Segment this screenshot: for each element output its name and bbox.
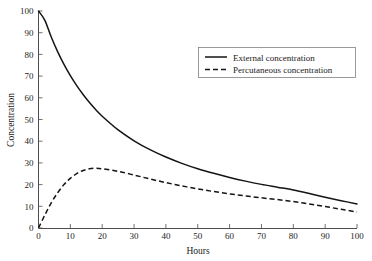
x-tick-label: 90 — [321, 231, 331, 241]
y-tick-label: 100 — [20, 6, 34, 16]
y-axis-tick-group — [39, 11, 43, 228]
y-axis-title: Concentration — [6, 93, 16, 147]
x-tick-label: 10 — [66, 231, 76, 241]
chart-legend: External concentration Percutaneous conc… — [199, 48, 356, 78]
y-axis-tick-labels: 0102030405060708090100 — [20, 6, 34, 233]
legend-label-1: Percutaneous concentration — [233, 65, 333, 75]
y-tick-label: 20 — [25, 180, 35, 190]
y-tick-label: 50 — [25, 115, 35, 125]
y-tick-label: 10 — [25, 202, 35, 212]
x-axis-title: Hours — [186, 246, 210, 256]
x-tick-label: 50 — [193, 231, 203, 241]
x-tick-label: 100 — [350, 231, 364, 241]
chart-figure: 0102030405060708090100 01020304050607080… — [0, 0, 372, 261]
y-tick-label: 0 — [29, 223, 34, 233]
chart-canvas: 0102030405060708090100 01020304050607080… — [0, 0, 372, 261]
x-tick-label: 0 — [36, 231, 41, 241]
series-line-external-concentration — [39, 11, 358, 204]
y-tick-label: 40 — [25, 136, 35, 146]
x-tick-label: 40 — [161, 231, 171, 241]
y-tick-label: 70 — [25, 71, 35, 81]
y-tick-label: 30 — [25, 158, 35, 168]
x-tick-label: 30 — [130, 231, 140, 241]
x-tick-label: 20 — [98, 231, 108, 241]
x-axis-tick-labels: 0102030405060708090100 — [36, 231, 364, 241]
series-line-percutaneous-concentration — [39, 168, 358, 228]
y-tick-label: 60 — [25, 93, 35, 103]
x-tick-label: 80 — [289, 231, 299, 241]
x-axis-tick-group — [39, 224, 358, 228]
x-tick-label: 70 — [257, 231, 267, 241]
y-tick-label: 80 — [25, 50, 35, 60]
legend-label-0: External concentration — [233, 53, 315, 63]
y-tick-label: 90 — [25, 28, 35, 38]
x-tick-label: 60 — [225, 231, 235, 241]
